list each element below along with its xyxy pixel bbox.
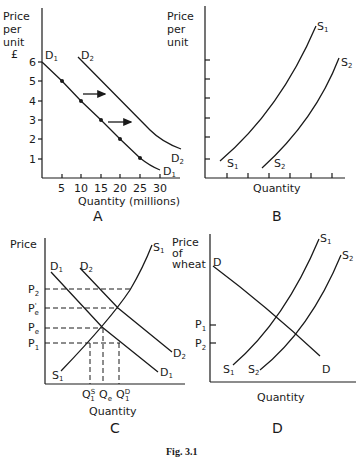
- panel-b-s1-curve: [220, 26, 316, 161]
- svg-text:20: 20: [113, 182, 127, 195]
- panel-b-ylabel-line3: unit: [167, 36, 189, 49]
- panel-d-label-d-end: D: [322, 363, 330, 376]
- panel-a-label-d2-top: D2: [81, 49, 94, 63]
- svg-text:25: 25: [133, 182, 147, 195]
- panel-d: Price of wheat P1 P2 D D S1 S2 S1 S2 Qua…: [172, 232, 356, 436]
- panel-d-ylabel-line3: wheat: [172, 258, 206, 271]
- svg-text:10: 10: [74, 182, 88, 195]
- panel-a-label-d1-top: D1: [45, 49, 58, 63]
- panel-c-label-pe: Pe: [28, 321, 39, 336]
- panel-c-label-d2-top: D2: [80, 260, 93, 274]
- panel-c-label-s1-top: S1: [153, 241, 164, 255]
- panel-b-label-s2-bottom: S2: [274, 157, 285, 171]
- panel-c-label-q1s: QS1: [82, 388, 96, 403]
- panel-d-s2-curve: [260, 255, 341, 370]
- panel-c-d2-curve: [80, 268, 172, 352]
- panel-d-demand-curve: [213, 266, 320, 356]
- panel-a-ylabel-line2: per: [3, 23, 22, 36]
- panel-a-ylabel-line1: Price: [3, 10, 30, 23]
- panel-a-y-ticks: 1 2 3 4 5 6: [29, 56, 42, 166]
- panel-d-label-s1-top: S1: [320, 232, 331, 246]
- panel-c-label-d1-top: D1: [50, 260, 63, 274]
- svg-text:1: 1: [29, 153, 36, 166]
- panel-c-label-d1-end: D1: [160, 366, 173, 380]
- panel-a: Price per unit £ 1 2 3 4 5 6: [3, 8, 184, 224]
- svg-text:2: 2: [29, 133, 36, 146]
- panel-c-label-q1d: QD1: [116, 388, 130, 403]
- panel-d-label-p1: P1: [195, 318, 206, 333]
- panel-d-s1-curve: [233, 239, 319, 365]
- panel-b-s2-curve: [262, 58, 339, 168]
- panel-b-ylabel-line1: Price: [167, 10, 194, 23]
- panel-c-label-p1: P1: [28, 337, 39, 352]
- panel-b-letter: B: [272, 208, 282, 224]
- svg-text:30: 30: [153, 182, 167, 195]
- panel-c-s1-curve: [61, 245, 152, 371]
- panel-a-label-d1-end: D1: [163, 165, 176, 179]
- panel-c: Price P2 P'e Pe P1 QS1 Qe QD1 Quantity S…: [10, 238, 186, 436]
- panel-c-letter: C: [110, 420, 120, 436]
- panel-c-ylabel: Price: [10, 238, 37, 251]
- panel-b-label-s2-top: S2: [341, 56, 352, 70]
- panel-b-y-ticks: [205, 60, 210, 159]
- panel-c-label-pe-prime: P'e: [28, 302, 39, 317]
- panel-d-label-s1-bottom: S1: [223, 363, 234, 377]
- panel-a-d1-curve: [42, 62, 160, 170]
- panel-a-label-d2-end: D2: [171, 152, 184, 166]
- svg-text:15: 15: [94, 182, 108, 195]
- panel-b-x-ticks: [227, 173, 332, 178]
- svg-text:5: 5: [29, 75, 36, 88]
- panel-a-d2-curve: [78, 57, 181, 149]
- panel-d-letter: D: [272, 420, 283, 436]
- figure-caption: Fig. 3.1: [166, 446, 197, 457]
- panel-b-label-s1-bottom: S1: [227, 157, 238, 171]
- panel-c-d1-curve: [51, 272, 158, 372]
- panel-a-x-ticks: 5 10 15 20 25 30: [58, 174, 167, 195]
- panel-d-label-s2-top: S2: [342, 249, 353, 263]
- panel-a-ylabel-line4: £: [11, 48, 18, 61]
- panel-d-label-d-top: D: [213, 256, 221, 269]
- panel-c-xlabel: Quantity: [89, 405, 137, 418]
- panel-b-ylabel-line2: per: [167, 23, 186, 36]
- panel-c-label-p2: P2: [28, 283, 39, 298]
- panel-b: Price per unit Quantity S1 S2 S1 S2 B: [167, 6, 352, 224]
- panel-c-label-d2-end: D2: [173, 347, 186, 361]
- panel-a-letter: A: [93, 208, 103, 224]
- panel-d-label-p2: P2: [195, 337, 206, 352]
- svg-text:3: 3: [29, 114, 36, 127]
- figure-canvas: Price per unit £ 1 2 3 4 5 6: [0, 0, 362, 463]
- panel-c-label-qe: Qe: [99, 388, 112, 403]
- svg-text:4: 4: [29, 95, 36, 108]
- panel-d-label-s2-bottom: S2: [248, 363, 259, 377]
- panel-d-xlabel: Quantity: [257, 391, 305, 404]
- svg-text:6: 6: [29, 56, 36, 69]
- svg-text:5: 5: [58, 182, 65, 195]
- panel-a-xlabel: Quantity (millions): [78, 195, 180, 208]
- panel-b-label-s1-top: S1: [317, 20, 328, 34]
- panel-b-xlabel: Quantity: [253, 182, 301, 195]
